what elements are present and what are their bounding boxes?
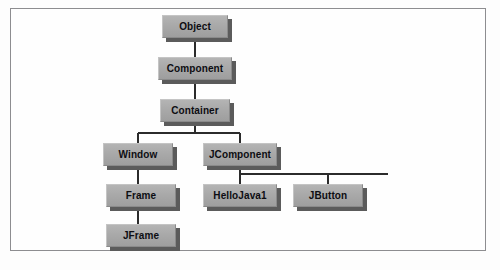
node-jframe[interactable]: JFrame — [106, 224, 176, 247]
node-object[interactable]: Object — [162, 15, 228, 38]
node-container[interactable]: Container — [160, 99, 230, 122]
node-window[interactable]: Window — [103, 143, 173, 166]
node-label: Frame — [126, 191, 157, 201]
node-frame[interactable]: Frame — [106, 184, 176, 207]
node-jbutton[interactable]: JButton — [293, 184, 363, 207]
node-label: JComponent — [209, 150, 271, 160]
node-jcomponent[interactable]: JComponent — [203, 143, 277, 166]
figure-border — [10, 8, 486, 251]
diagram-canvas: Object Component Container Window JCompo… — [0, 0, 500, 270]
node-label: Component — [167, 64, 223, 74]
node-label: Container — [171, 106, 219, 116]
node-label: HelloJava1 — [213, 191, 266, 201]
node-label: JFrame — [123, 231, 159, 241]
node-label: Object — [179, 22, 211, 32]
node-label: JButton — [309, 191, 347, 201]
node-label: Window — [119, 150, 158, 160]
node-component[interactable]: Component — [158, 57, 232, 80]
node-hellojava1[interactable]: HelloJava1 — [203, 184, 277, 207]
